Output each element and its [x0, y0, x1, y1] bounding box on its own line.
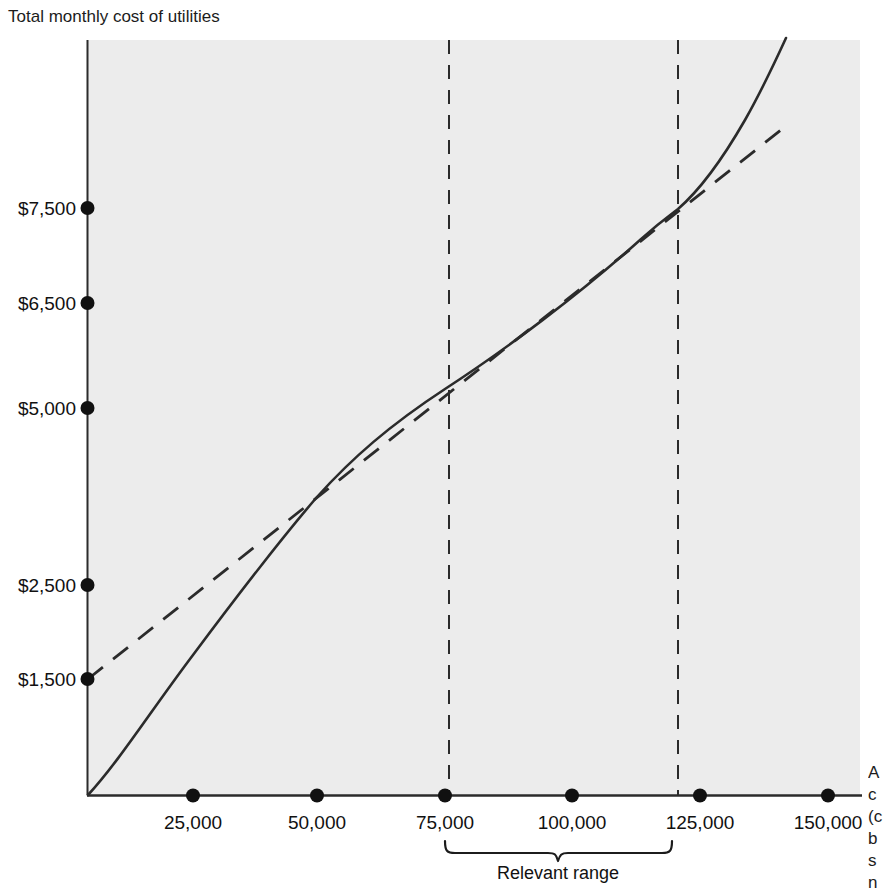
x-tick-label-50000: 50,000 — [288, 812, 346, 833]
margin-note-line-2: c — [868, 784, 891, 806]
x-tick-label-100000: 100,000 — [538, 812, 607, 833]
relevant-range-brace — [445, 841, 672, 861]
y-axis-dot-5000 — [81, 401, 95, 415]
plot-background — [87, 40, 860, 795]
y-tick-label-2500: $2,500 — [18, 575, 76, 596]
x-axis-dot-50000 — [310, 789, 324, 803]
margin-note: A c (c b s n — [868, 762, 891, 892]
y-tick-label-7500: $7,500 — [18, 198, 76, 219]
y-axis-dot-6500 — [81, 296, 95, 310]
y-tick-label-6500: $6,500 — [18, 293, 76, 314]
x-tick-label-150000: 150,000 — [794, 812, 863, 833]
x-axis-dot-75000 — [438, 789, 452, 803]
margin-note-line-3: (c — [868, 806, 891, 828]
y-axis-dot-1500 — [81, 672, 95, 686]
y-axis-dot-7500 — [81, 201, 95, 215]
x-tick-label-75000: 75,000 — [416, 812, 474, 833]
x-axis-dot-150000 — [821, 789, 835, 803]
margin-note-line-1: A — [868, 762, 891, 784]
x-tick-label-25000: 25,000 — [164, 812, 222, 833]
y-tick-label-1500: $1,500 — [18, 669, 76, 690]
margin-note-line-6: n — [868, 872, 891, 892]
x-axis-dot-125000 — [693, 789, 707, 803]
x-axis-dot-100000 — [565, 789, 579, 803]
y-axis-dot-2500 — [81, 578, 95, 592]
x-tick-label-125000: 125,000 — [666, 812, 735, 833]
margin-note-line-5: s — [868, 850, 891, 872]
relevant-range-label: Relevant range — [497, 863, 619, 883]
x-axis-dot-25000 — [186, 789, 200, 803]
y-tick-label-5000: $5,000 — [18, 398, 76, 419]
margin-note-line-4: b — [868, 828, 891, 850]
